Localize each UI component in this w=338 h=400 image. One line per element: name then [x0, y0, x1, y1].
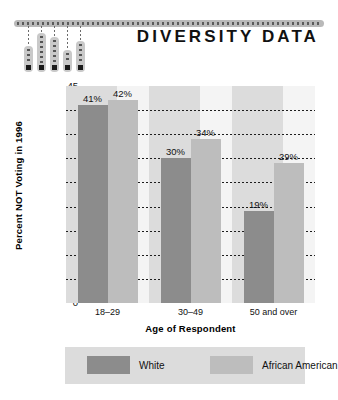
- figure-header: DIVERSITY DATA: [0, 0, 331, 80]
- thermometer-bulb-icon: [65, 65, 70, 70]
- x-axis-tick-label: 18–29: [66, 308, 149, 317]
- thermometer-bar-icon: [50, 37, 59, 72]
- data-label: 29%: [274, 152, 304, 162]
- thermometer-stem: [28, 26, 29, 46]
- x-axis-title: Age of Respondent: [66, 323, 315, 334]
- thermometer-bulb-icon: [39, 65, 44, 70]
- data-label: 30%: [161, 147, 191, 157]
- thermometer-bar-icon: [37, 33, 46, 72]
- thermometer-stem: [80, 26, 81, 41]
- legend-item: White: [87, 356, 165, 374]
- thermometer-bars-graphic: [14, 20, 132, 72]
- y-axis-title: Percent NOT Voting in 1996: [13, 106, 24, 266]
- data-label: 19%: [244, 200, 274, 210]
- thermometer-bulb-icon: [78, 65, 83, 70]
- legend-label: African American: [262, 360, 338, 371]
- x-axis-tick-label: 50 and over: [232, 308, 315, 317]
- page-title: DIVERSITY DATA: [137, 27, 319, 47]
- thermometer-stem: [41, 26, 42, 33]
- bar-white: [78, 105, 108, 303]
- bar-african-american: [108, 100, 138, 303]
- legend: WhiteAfrican American: [65, 347, 305, 384]
- data-label: 34%: [191, 128, 221, 138]
- bar-african-american: [191, 139, 221, 303]
- bar-white: [161, 158, 191, 303]
- data-label: 41%: [78, 94, 108, 104]
- thermometer-bulb-icon: [52, 65, 57, 70]
- legend-label: White: [139, 360, 165, 371]
- legend-item: African American: [210, 356, 338, 374]
- thermometer-bar-icon: [24, 46, 33, 72]
- bar-african-american: [274, 163, 304, 303]
- thermometer-stem: [67, 26, 68, 50]
- data-label: 42%: [108, 89, 138, 99]
- bar-white: [244, 211, 274, 303]
- x-axis-tick-label: 30–49: [149, 308, 232, 317]
- dotted-rail-icon: [14, 20, 324, 27]
- legend-swatch: [210, 356, 253, 374]
- thermometer-bar-icon: [63, 50, 72, 72]
- legend-swatch: [87, 356, 130, 374]
- chart-area: Percent NOT Voting in 1996 4540353025201…: [0, 80, 331, 338]
- thermometer-bulb-icon: [26, 65, 31, 70]
- plot-area: [66, 86, 315, 303]
- thermometer-stem: [54, 26, 55, 37]
- thermometer-bar-icon: [76, 41, 85, 72]
